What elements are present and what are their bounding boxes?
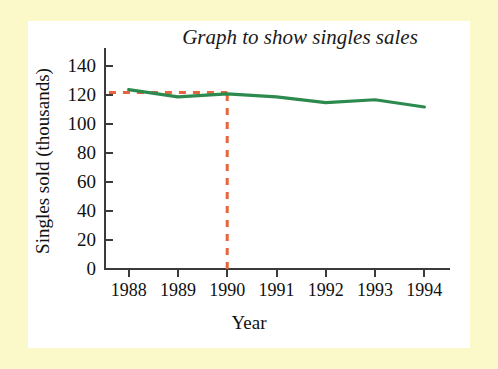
x-axis-title: Year bbox=[0, 312, 498, 334]
y-axis-title: Singles sold (thousands) bbox=[32, 41, 54, 281]
line-chart: Graph to show singles sales 020406080100… bbox=[0, 0, 498, 369]
data-line-singles-sold bbox=[129, 90, 425, 107]
chart-figure: Graph to show singles sales 020406080100… bbox=[0, 0, 498, 369]
